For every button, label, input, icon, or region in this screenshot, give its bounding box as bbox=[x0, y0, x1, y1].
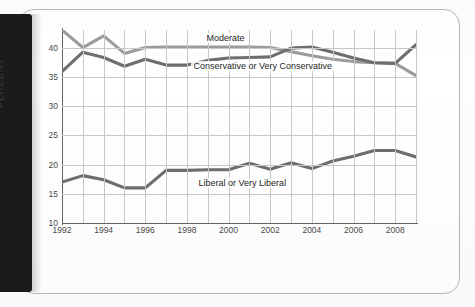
gridline-vertical bbox=[416, 30, 417, 223]
x-axis-tick-label: 2000 bbox=[212, 226, 246, 235]
series-label-liberal: Liberal or Very Liberal bbox=[197, 178, 289, 188]
x-axis-line bbox=[62, 223, 418, 224]
gridline-horizontal bbox=[62, 165, 416, 166]
gridline-horizontal bbox=[62, 135, 416, 136]
y-axis-tick-label: 20 bbox=[36, 161, 58, 170]
x-axis-tick-label: 2004 bbox=[295, 226, 329, 235]
series-label-conservative: Conservative or Very Conservative bbox=[191, 61, 334, 71]
gridline-horizontal bbox=[62, 48, 416, 49]
y-axis-title: PERCENT bbox=[0, 58, 5, 108]
series-label-moderate: Moderate bbox=[205, 33, 247, 43]
x-axis-tick-label: 2006 bbox=[337, 226, 371, 235]
gridline-horizontal bbox=[62, 106, 416, 107]
y-axis-tick-label: 15 bbox=[36, 190, 58, 199]
x-axis-tick-label: 1996 bbox=[128, 226, 162, 235]
x-axis-tick-label: 1992 bbox=[45, 226, 79, 235]
gridline-horizontal bbox=[62, 194, 416, 195]
x-axis-tick-label: 2008 bbox=[378, 226, 412, 235]
x-axis-tick-label: 1998 bbox=[170, 226, 204, 235]
y-axis-tick-label: 40 bbox=[36, 44, 58, 53]
chart-plot-area bbox=[62, 30, 416, 223]
book-spine bbox=[0, 14, 32, 292]
y-axis-tick-label: 25 bbox=[36, 131, 58, 140]
y-axis-tick-labels: 40353025201510 bbox=[34, 0, 58, 307]
y-axis-tick-label: 30 bbox=[36, 102, 58, 111]
y-axis-tick-label: 35 bbox=[36, 73, 58, 82]
scanned-page-background: PERCENT 40353025201510 19921994199619982… bbox=[0, 0, 475, 307]
gridline-horizontal bbox=[62, 77, 416, 78]
x-axis-tick-label: 2002 bbox=[253, 226, 287, 235]
x-axis-tick-label: 1994 bbox=[87, 226, 121, 235]
